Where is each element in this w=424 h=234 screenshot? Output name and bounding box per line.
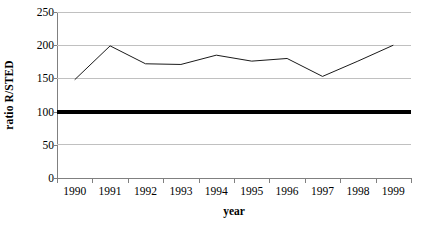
y-tick-mark (52, 12, 57, 13)
y-tick-label: 50 (22, 139, 54, 150)
y-axis-title: ratio R/STED (0, 0, 18, 190)
x-tick-label: 1993 (163, 185, 198, 198)
y-tick-label: 200 (22, 40, 54, 51)
y-tick-mark (52, 145, 57, 146)
plot-svg (57, 12, 411, 178)
x-tick-label: 1992 (128, 185, 163, 198)
x-tick-mark (199, 178, 200, 183)
x-tick-mark (234, 178, 235, 183)
data-series-line (75, 45, 394, 80)
x-tick-mark (340, 178, 341, 183)
data-series-group (75, 45, 394, 80)
x-axis-title: year (57, 205, 411, 217)
x-tick-label: 1990 (57, 185, 92, 198)
x-tick-mark (92, 178, 93, 183)
y-tick-label: 100 (22, 106, 54, 117)
x-tick-label: 1996 (269, 185, 304, 198)
x-tick-mark (163, 178, 164, 183)
x-tick-label: 1994 (199, 185, 234, 198)
x-tick-mark (411, 178, 412, 183)
line-chart: ratio R/STED 050100150200250 year 199019… (0, 0, 424, 234)
x-tick-label: 1999 (376, 185, 411, 198)
y-tick-mark (52, 112, 57, 113)
y-axis-tick-labels: 050100150200250 (18, 0, 54, 234)
x-tick-mark (376, 178, 377, 183)
y-tick-label: 250 (22, 7, 54, 18)
y-tick-label: 0 (22, 173, 54, 184)
y-tick-label: 150 (22, 73, 54, 84)
x-tick-label: 1995 (234, 185, 269, 198)
x-tick-label: 1991 (92, 185, 127, 198)
x-tick-mark (128, 178, 129, 183)
x-tick-mark (269, 178, 270, 183)
x-tick-label: 1997 (305, 185, 340, 198)
y-axis-title-text: ratio R/STED (3, 60, 15, 129)
plot-area (57, 12, 411, 178)
gridlines (57, 12, 411, 178)
x-tick-label: 1998 (340, 185, 375, 198)
x-tick-mark (305, 178, 306, 183)
x-tick-mark (57, 178, 58, 183)
y-tick-mark (52, 45, 57, 46)
y-tick-mark (52, 78, 57, 79)
